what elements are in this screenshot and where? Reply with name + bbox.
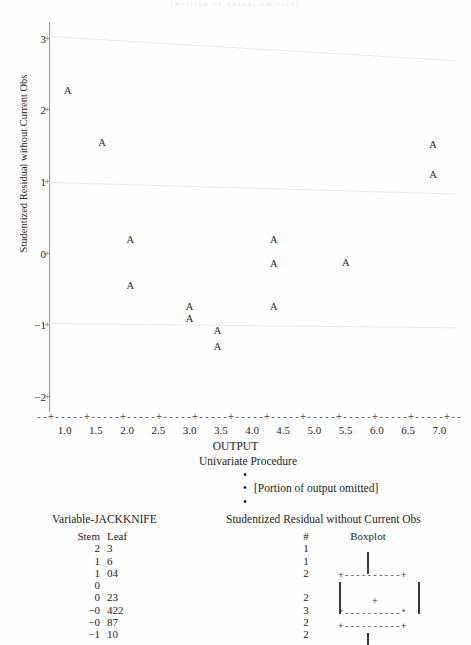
cell-count: 2 xyxy=(300,591,312,603)
y-tick-−1: −1+ xyxy=(0,319,46,331)
cell-count: 2 xyxy=(300,616,312,628)
cell-stem: −0 xyxy=(62,604,100,616)
lower-reference-line xyxy=(49,323,455,328)
y-tick-2: 2+ xyxy=(0,104,46,116)
data-point: A xyxy=(98,136,106,147)
cell-leaf: 10 xyxy=(107,628,118,640)
x-tick-7.0: 7.0 xyxy=(433,424,447,436)
box-right-side xyxy=(418,582,420,614)
y-tick-−2: −2+ xyxy=(0,391,46,403)
cell-stem: 0 xyxy=(62,591,100,603)
x-axis-label: OUTPUT xyxy=(0,440,471,452)
data-point: A xyxy=(342,256,350,267)
x-tick-4.5: 4.5 xyxy=(276,424,290,436)
x-tick-1.0: 1.0 xyxy=(58,424,72,436)
x-tick-5.0: 5.0 xyxy=(308,424,322,436)
box-upper-fence: +----------+ xyxy=(338,570,406,582)
x-tick-2.0: 2.0 xyxy=(120,424,134,436)
lower-whisker xyxy=(367,633,369,645)
cell-stem: −1 xyxy=(62,628,100,640)
variable-label: Variable-JACKKNIFE xyxy=(52,513,157,525)
data-point: A xyxy=(270,301,278,312)
data-point: A xyxy=(186,312,194,323)
data-point: A xyxy=(270,258,278,269)
boxplot-figure: +----------+ + *----------* +----------+ xyxy=(330,540,471,643)
x-tick-5.5: 5.5 xyxy=(339,424,353,436)
data-point: A xyxy=(214,341,222,352)
box-lower-fence: +----------+ xyxy=(338,621,406,633)
cell-count: 3 xyxy=(300,604,312,616)
bullet-3: • xyxy=(243,496,247,508)
data-point: A xyxy=(64,84,72,95)
univariate-title: Univariate Procedure xyxy=(199,455,297,467)
data-point: A xyxy=(186,301,194,312)
cell-leaf: 87 xyxy=(107,616,118,628)
x-tick-1.5: 1.5 xyxy=(89,424,103,436)
cell-count: 1 xyxy=(300,555,312,567)
cell-stem: 0 xyxy=(62,579,100,591)
residual-scatter-plot: Studentized Residual without Current Obs… xyxy=(0,8,471,448)
x-tick-3.0: 3.0 xyxy=(183,424,197,436)
cell-leaf: 3 xyxy=(107,542,113,554)
cell-leaf: 422 xyxy=(107,604,124,616)
data-point: A xyxy=(429,138,437,149)
y-tick-3: 3+ xyxy=(0,33,46,45)
x-tick-6.0: 6.0 xyxy=(370,424,384,436)
x-tick-6.5: 6.5 xyxy=(401,424,415,436)
x-tick-4.0: 4.0 xyxy=(245,424,259,436)
data-point: A xyxy=(214,324,222,335)
cell-stem: −0 xyxy=(62,616,100,628)
data-point: A xyxy=(126,279,134,290)
cell-stem: 1 xyxy=(62,567,100,579)
header-stem: Stem xyxy=(62,530,100,542)
y-tick-1: 1+ xyxy=(0,176,46,188)
cell-leaf: 04 xyxy=(107,567,118,579)
header-count: # xyxy=(300,530,312,542)
x-tick-3.5: 3.5 xyxy=(214,424,228,436)
output-omitted-note: [Portion of output omitted] xyxy=(254,482,378,494)
y-tick-0: 0+ xyxy=(0,248,46,260)
mid-reference-line xyxy=(49,182,455,194)
bullet-1: • xyxy=(243,469,247,481)
cell-stem: 1 xyxy=(62,555,100,567)
x-tick-2.5: 2.5 xyxy=(151,424,165,436)
cell-count: 2 xyxy=(300,628,312,640)
stemleaf-column-title: Studentized Residual without Current Obs xyxy=(226,513,421,525)
box-mean-marker: + xyxy=(372,596,378,608)
cell-leaf: 6 xyxy=(107,555,113,567)
data-point: A xyxy=(270,233,278,244)
data-point: A xyxy=(126,233,134,244)
cell-count: 2 xyxy=(300,567,312,579)
cell-leaf: 23 xyxy=(107,591,118,603)
upper-reference-line xyxy=(49,36,455,61)
x-axis-line: --+-----+-----+-----+-----+-----+-----+-… xyxy=(36,412,460,424)
box-median-line: *----------* xyxy=(338,608,406,620)
cell-stem: 2 xyxy=(62,542,100,554)
data-point: A xyxy=(429,169,437,180)
cell-count: 1 xyxy=(300,542,312,554)
header-leaf: Leaf xyxy=(107,530,127,542)
bullet-2: • xyxy=(243,482,247,494)
y-axis-line xyxy=(49,22,50,412)
y-axis-label: Studentized Residual without Current Obs xyxy=(18,49,29,279)
